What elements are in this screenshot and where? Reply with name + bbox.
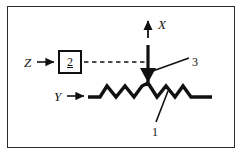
callout-label-1: 1 bbox=[152, 126, 158, 138]
zigzag-surface bbox=[88, 83, 212, 97]
callout-label-3: 3 bbox=[192, 56, 198, 68]
figure-drawing-canvas bbox=[0, 0, 244, 157]
component-box-2-label: 2 bbox=[67, 56, 73, 68]
component-box-2: 2 bbox=[58, 50, 82, 74]
label-x: X bbox=[158, 18, 166, 31]
figure-root: 2 Z Y X 3 1 bbox=[0, 0, 244, 157]
label-z: Z bbox=[24, 56, 31, 69]
leader-line-3 bbox=[150, 58, 189, 72]
label-y: Y bbox=[54, 90, 61, 103]
